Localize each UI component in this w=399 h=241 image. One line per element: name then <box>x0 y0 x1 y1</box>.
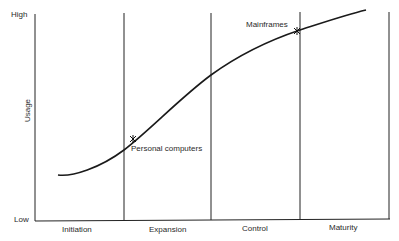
usage-curve <box>58 10 366 175</box>
stage-label-initiation: Initiation <box>62 225 92 234</box>
y-axis-title: Usage <box>23 99 32 122</box>
mainframes-label: Mainframes <box>246 20 288 29</box>
stage-diagram-canvas <box>0 0 399 241</box>
y-high-label: High <box>11 10 27 19</box>
y-low-label: Low <box>14 215 29 224</box>
stage-label-maturity: Maturity <box>329 223 357 232</box>
stage-label-expansion: Expansion <box>149 225 186 234</box>
stage-label-control: Control <box>242 224 268 233</box>
personal-computers-label: Personal computers <box>131 144 202 153</box>
personal-computers-marker-icon <box>130 135 136 143</box>
x-axis <box>35 219 390 221</box>
